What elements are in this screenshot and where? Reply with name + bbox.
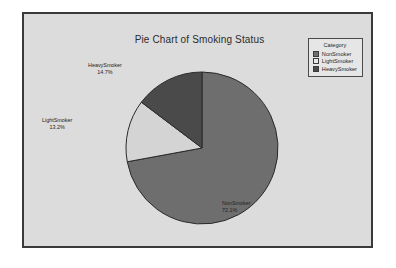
legend-swatch-nonsmoker (313, 51, 319, 57)
legend-items: NonSmokerLightSmokerHeavySmoker (313, 51, 357, 72)
legend-swatch-heavysmoker (313, 66, 319, 72)
legend-item-heavysmoker: HeavySmoker (313, 66, 357, 72)
plot-frame: Pie Chart of Smoking Status HeavySmoker … (22, 12, 373, 248)
pie-chart-figure: Pie Chart of Smoking Status HeavySmoker … (0, 0, 396, 268)
slice-label-lightsmoker: LightSmoker 13.2% (42, 117, 72, 131)
slice-label-heavysmoker-name: HeavySmoker (88, 62, 122, 68)
legend-label-heavysmoker: HeavySmoker (322, 66, 357, 72)
legend-label-lightsmoker: LightSmoker (322, 58, 353, 64)
slice-label-nonsmoker-name: NonSmoker (222, 200, 250, 206)
legend-label-nonsmoker: NonSmoker (322, 51, 352, 57)
slice-label-lightsmoker-name: LightSmoker (42, 117, 72, 123)
legend: Category NonSmokerLightSmokerHeavySmoker (308, 38, 363, 77)
slice-label-lightsmoker-percent: 13.2% (42, 124, 72, 131)
slice-label-heavysmoker-percent: 14.7% (88, 69, 122, 76)
slice-label-nonsmoker-percent: 72.1% (222, 207, 250, 214)
legend-swatch-lightsmoker (313, 58, 319, 64)
slice-label-nonsmoker: NonSmoker 72.1% (222, 200, 250, 214)
legend-item-nonsmoker: NonSmoker (313, 51, 357, 57)
pie-slices (126, 72, 278, 224)
slice-label-heavysmoker: HeavySmoker 14.7% (88, 62, 122, 76)
legend-title: Category (313, 42, 357, 48)
legend-item-lightsmoker: LightSmoker (313, 58, 357, 64)
